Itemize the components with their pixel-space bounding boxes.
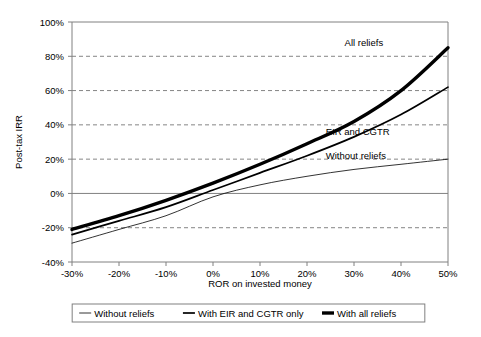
x-tick-label: -20% <box>108 268 131 279</box>
y-tick-label: 40% <box>45 119 65 130</box>
y-tick-label: 20% <box>45 154 65 165</box>
x-tick-label: 40% <box>391 268 411 279</box>
series-annotation-label: EIR and CGTR <box>326 126 390 137</box>
y-axis-label: Post-tax IRR <box>13 115 24 169</box>
x-tick-label: -30% <box>61 268 84 279</box>
irr-line-chart: -30%-20%-10%0%10%20%30%40%50% -40%-20%0%… <box>0 0 481 337</box>
series-annotation-label: All reliefs <box>345 37 384 48</box>
legend-item-label: With all reliefs <box>337 308 396 319</box>
y-tick-label: 100% <box>40 17 65 28</box>
x-tick-label: 30% <box>344 268 364 279</box>
legend-item-label: With EIR and CGTR only <box>198 308 304 319</box>
chart-legend: Without reliefsWith EIR and CGTR onlyWit… <box>72 304 425 322</box>
y-tick-label: 80% <box>45 51 65 62</box>
legend-item-label: Without reliefs <box>94 308 154 319</box>
x-axis-label: ROR on invested money <box>208 278 312 289</box>
y-tick-label: -20% <box>42 222 65 233</box>
y-tick-label: 0% <box>50 188 64 199</box>
series-annotation-label: Without reliefs <box>326 150 386 161</box>
y-tick-label: -40% <box>42 257 65 268</box>
y-tick-label: 60% <box>45 85 65 96</box>
x-tick-label: 50% <box>438 268 458 279</box>
chart-container: -30%-20%-10%0%10%20%30%40%50% -40%-20%0%… <box>0 0 481 337</box>
x-tick-label: -10% <box>155 268 178 279</box>
